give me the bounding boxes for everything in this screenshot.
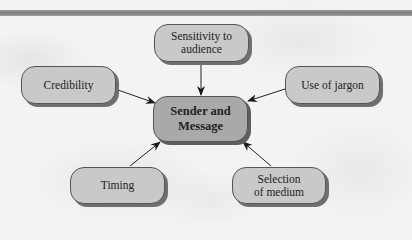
arrow-credibility-to-center <box>118 90 155 103</box>
node-use-of-jargon: Use of jargon <box>285 66 380 104</box>
node-label: Sensitivity to audience <box>171 30 232 56</box>
arrow-jargon-to-center <box>248 89 285 101</box>
node-selection-of-medium: Selection of medium <box>232 167 326 204</box>
node-label: Use of jargon <box>301 79 363 92</box>
arrow-medium-to-center <box>243 142 271 166</box>
node-label: Timing <box>101 179 134 192</box>
node-timing: Timing <box>70 167 165 204</box>
node-sender-and-message: Sender and Message <box>153 96 248 142</box>
node-credibility: Credibility <box>21 66 116 104</box>
node-sensitivity-to-audience: Sensitivity to audience <box>154 24 249 62</box>
center-label: Sender and Message <box>170 104 231 134</box>
node-label: Selection of medium <box>254 173 304 199</box>
arrow-timing-to-center <box>130 142 160 166</box>
node-label: Credibility <box>44 79 94 92</box>
